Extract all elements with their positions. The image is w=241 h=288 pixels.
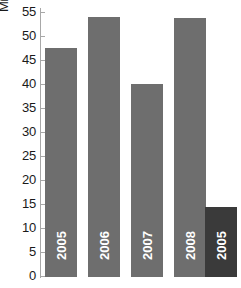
bar: 2005 [45,48,77,277]
bar: 2007 [131,84,163,277]
bar: 2008 [174,18,206,277]
bar-label: 2005 [54,231,69,260]
bar-label: 2005 [214,231,229,260]
bar: 2005 [205,207,237,277]
bar-label: 2006 [97,231,112,260]
bar-chart: Mill. 5550454035302520151050 20052006200… [0,0,241,288]
bar-label: 2008 [183,231,198,260]
bar-label-container: 2006 [88,223,120,277]
bar-label-container: 2007 [131,223,163,277]
bar-label-container: 2008 [174,223,206,277]
bar-label: 2007 [140,231,155,260]
plot-area: 20052006200720082005 [0,0,241,288]
bar-label-container: 2005 [45,223,77,277]
bar: 2006 [88,17,120,277]
bar-label-container: 2005 [205,223,237,277]
